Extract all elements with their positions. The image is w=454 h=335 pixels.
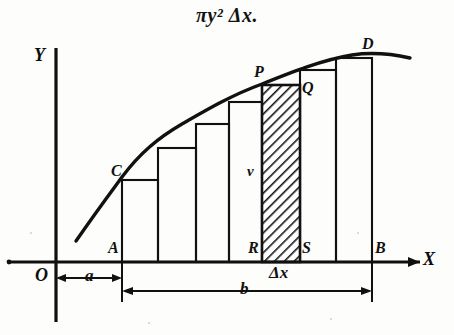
- x-axis: [7, 260, 420, 265]
- paper-speck: [330, 318, 332, 320]
- label-dimension-b: b: [240, 280, 249, 297]
- shaded-strip-PQSR: [262, 85, 300, 262]
- rect-step-4: [229, 102, 262, 262]
- label-height-v: v: [247, 164, 254, 179]
- label-origin-o: O: [35, 266, 48, 284]
- x-axis-arrowhead: [408, 257, 420, 267]
- figure-root: πy² Δx.: [0, 0, 454, 335]
- paper-speck: [357, 232, 359, 234]
- paper-speck: [30, 232, 32, 234]
- rect-step-3: [196, 124, 229, 262]
- rect-step-5-hatched: [262, 85, 300, 262]
- label-dimension-delta-x: Δx: [269, 264, 288, 281]
- function-curve: [76, 54, 410, 241]
- label-point-D: D: [362, 36, 374, 52]
- label-point-R: R: [248, 240, 259, 256]
- figure-drawing: [0, 0, 454, 335]
- label-point-S: S: [302, 240, 311, 256]
- label-point-P: P: [254, 64, 264, 80]
- label-dimension-a: a: [85, 267, 94, 284]
- rect-step-7: [336, 58, 372, 262]
- label-axis-x: X: [423, 250, 435, 268]
- rect-step-6: [300, 70, 336, 262]
- label-point-B: B: [375, 240, 386, 256]
- label-point-Q: Q: [302, 80, 314, 96]
- label-point-C: C: [111, 163, 122, 179]
- rect-step-1: [122, 180, 158, 262]
- label-axis-y: Y: [34, 46, 45, 64]
- dimension-extension-rules: [56, 262, 372, 302]
- rect-step-2: [158, 148, 196, 262]
- paper-speck: [148, 322, 150, 324]
- label-point-A: A: [108, 240, 119, 256]
